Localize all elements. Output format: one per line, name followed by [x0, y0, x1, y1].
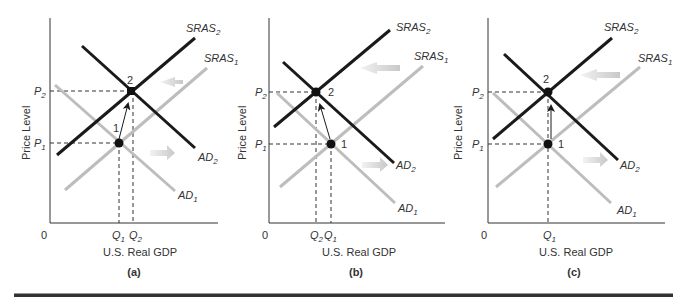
origin-label: 0: [262, 229, 268, 241]
panel-b: 2 1 P2 P1 Q2 Q1 0 U.S. Real GDP (b) Pric…: [236, 18, 448, 278]
y-axis-label: Price Level: [20, 106, 32, 160]
sras1-label: SRAS1: [414, 50, 448, 65]
panel-c: 2 1 P2 P1 Q1 0 U.S. Real GDP (c) Price L…: [452, 18, 672, 278]
sras-shift-arrow-icon: [360, 62, 400, 74]
sras1-label: SRAS1: [204, 52, 238, 67]
q2-tick: Q2: [129, 229, 143, 244]
point-1-label: 1: [341, 138, 347, 150]
ad2-label: AD2: [395, 159, 416, 174]
ad1-label: AD1: [177, 189, 198, 204]
ad2-curve: [82, 46, 195, 148]
q1-tick: Q1: [324, 229, 337, 244]
ad-shift-arrow-icon: [150, 145, 175, 160]
point-1-label: 1: [558, 138, 564, 150]
sras2-curve: [274, 30, 390, 127]
origin-label: 0: [481, 229, 487, 241]
ad-shift-arrow-icon: [362, 157, 388, 172]
ad1-curve: [493, 93, 611, 203]
sras2-label: SRAS2: [604, 21, 639, 36]
equilibrium-point-2: [544, 88, 553, 97]
ad2-label: AD2: [197, 151, 218, 166]
q1-tick: Q1: [543, 229, 556, 244]
sras-shift-arrow-icon: [580, 69, 620, 81]
sras2-label: SRAS2: [186, 22, 221, 37]
bottom-rule: [14, 293, 673, 297]
point-2-label: 2: [127, 74, 133, 86]
sras2-curve: [493, 38, 612, 139]
equilibrium-point-1: [327, 140, 336, 149]
figure: 2 1 P2 P1 Q1 Q2 0 U.S. Real GDP (a) Pric…: [0, 0, 687, 302]
q2-tick: Q2: [310, 229, 324, 244]
point-2-label: 2: [328, 86, 334, 98]
y-axis-label: Price Level: [236, 106, 248, 160]
ad1-label: AD1: [616, 204, 637, 219]
panel-a: 2 1 P2 P1 Q1 Q2 0 U.S. Real GDP (a) Pric…: [20, 18, 238, 278]
sras1-label: SRAS1: [638, 52, 672, 67]
movement-arrow-icon: [119, 104, 128, 139]
p1-tick: P1: [472, 138, 484, 153]
q1-tick: Q1: [112, 229, 125, 244]
x-axis-label: U.S. Real GDP: [322, 246, 396, 258]
p1-tick: P1: [34, 137, 46, 152]
point-1-label: 1: [113, 122, 119, 134]
panel-caption-a: (a): [127, 266, 141, 278]
point-2-label: 2: [543, 73, 549, 85]
equilibrium-point-1: [544, 140, 553, 149]
p2-tick: P2: [472, 86, 484, 101]
sras1-curve: [496, 67, 640, 187]
p1-tick: P1: [255, 138, 267, 153]
panel-caption-c: (c): [567, 266, 581, 278]
sras2-label: SRAS2: [396, 21, 431, 36]
ad-shift-arrow-icon: [583, 152, 608, 167]
equilibrium-point-1: [115, 139, 124, 148]
y-axis-label: Price Level: [452, 106, 464, 160]
x-axis-label: U.S. Real GDP: [103, 246, 177, 258]
panel-caption-b: (b): [349, 266, 363, 278]
origin-label: 0: [41, 229, 47, 241]
ad2-label: AD2: [619, 159, 640, 174]
ad1-curve: [55, 85, 175, 191]
ad1-label: AD1: [397, 202, 418, 217]
equilibrium-point-2: [127, 87, 135, 95]
equilibrium-point-2: [312, 88, 321, 97]
p2-tick: P2: [255, 86, 267, 101]
x-axis-label: U.S. Real GDP: [539, 246, 613, 258]
sras-shift-arrow-icon: [160, 77, 183, 87]
p2-tick: P2: [34, 85, 46, 100]
